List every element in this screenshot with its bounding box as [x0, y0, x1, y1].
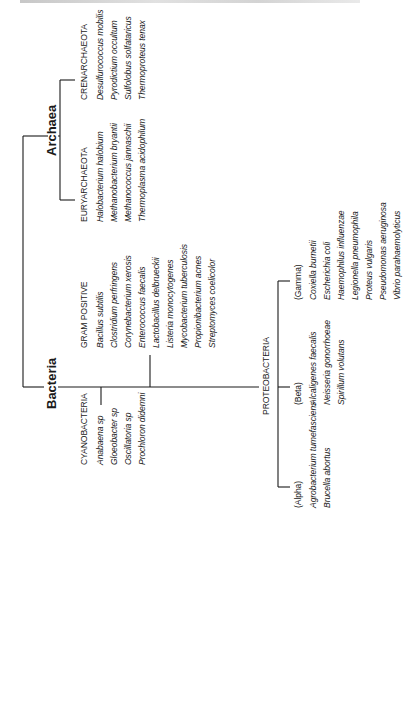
- subgroup-label-alpha: (Alpha): [294, 481, 303, 508]
- species-label: Oscillatoria sp: [124, 413, 133, 465]
- species-label: Halobacterium halobium: [96, 132, 105, 222]
- species-label: Gloeobacter sp: [110, 408, 119, 465]
- species-label: Methanococcus jannaschii: [124, 124, 133, 222]
- species-label: Listeria monocytogenes: [166, 259, 175, 348]
- species-label: Alcaligenes faecalis: [309, 332, 318, 405]
- species-label: Brucella abortus: [323, 448, 332, 509]
- subgroup-label-beta: (Beta): [294, 382, 303, 405]
- group-label-euryarchaeota: EURYARCHAEOTA: [80, 147, 89, 222]
- species-label: Thermoplasma acidophilum: [138, 119, 147, 222]
- species-label: Agrobacterium tumefasciens: [309, 402, 318, 508]
- species-label: Haemophilus influenzae: [337, 210, 346, 300]
- species-label: Sulfolobus solfataricus: [124, 16, 133, 100]
- domain-label-bacteria: Bacteria: [45, 358, 58, 409]
- species-label: Spirillum volutans: [337, 339, 346, 405]
- species-label: Thermoproteus tenax: [138, 20, 147, 100]
- subgroup-label-gamma: (Gamma): [294, 264, 303, 300]
- species-label: Legionella pneumophila: [351, 211, 360, 300]
- species-label: Bacillus subtilis: [96, 291, 105, 348]
- species-label: Mycobacterium tuberculosis: [180, 244, 189, 348]
- species-label: Corynebacterium xerosis: [124, 255, 133, 348]
- species-label: Coxiella burnetii: [309, 241, 318, 300]
- species-label: Anabaena sp: [96, 415, 105, 465]
- species-label: Streptomyces coelicolor: [208, 259, 217, 348]
- species-label: Pyrodictium occultum: [110, 20, 119, 100]
- species-label: Escherichia coli: [323, 242, 332, 300]
- group-label-gram-positive: GRAM POSITIVE: [80, 281, 89, 348]
- species-label: Vibrio parahaemolyticus: [393, 211, 402, 300]
- species-label: Prochloron didemni: [138, 393, 147, 465]
- tree-lines: [0, 0, 419, 722]
- species-label: Proteus vulgaris: [365, 240, 374, 300]
- species-label: Pseudomonas aeruginosa: [379, 202, 388, 300]
- species-label: Methanobacterium bryantii: [110, 123, 119, 222]
- species-label: Desulfurococcus mobilis: [96, 10, 105, 100]
- species-label: Lactobacillus delbrueckii: [152, 257, 161, 348]
- species-label: Neisseria gonorrhoeae: [323, 320, 332, 405]
- group-label-proteobacteria: PROTEOBACTERIA: [262, 337, 271, 415]
- group-label-crenarchaeota: CRENARCHAEOTA: [80, 24, 89, 100]
- species-label: Propionibacterium acnes: [194, 256, 203, 348]
- species-label: Clostridium perfringens: [110, 262, 119, 348]
- domain-label-archaea: Archaea: [45, 105, 58, 156]
- group-label-cyanobacteria: CYANOBACTERIA: [80, 393, 89, 465]
- species-label: Enterococcus faecalis: [138, 267, 147, 349]
